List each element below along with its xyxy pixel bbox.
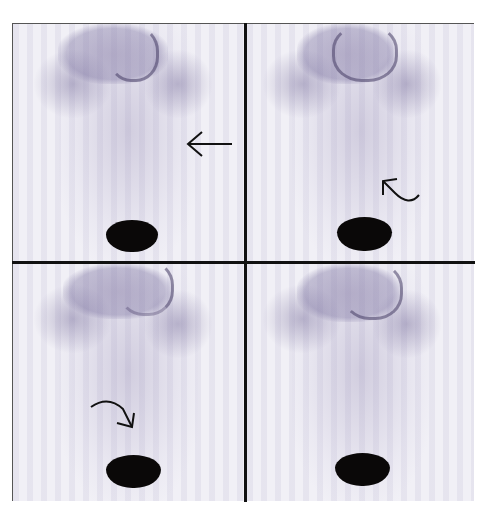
heart-rim [332, 24, 398, 82]
heart-rim [118, 264, 174, 316]
bladder-hotspot [106, 220, 158, 252]
horizontal-divider [12, 261, 475, 264]
heart-rim [342, 264, 403, 320]
heart-rim [108, 26, 159, 82]
scan-panel-top-right [247, 24, 474, 261]
curved-arrow-down-right-icon [88, 399, 148, 444]
scan-panel-bottom-right [247, 264, 474, 501]
straight-arrow-left-icon [185, 129, 235, 159]
scan-panel-bottom-left [13, 264, 244, 501]
scan-panel-top-left [13, 24, 244, 261]
curved-arrow-up-left-icon [377, 167, 427, 207]
